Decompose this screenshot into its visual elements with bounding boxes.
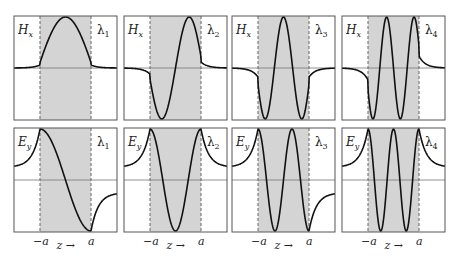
ey-panel-mode-2: Eyλ2 [124,128,227,232]
hx-panel-mode-3: Hxλ3 [232,16,335,120]
field-label: Ey [127,135,142,151]
tick-minus-a: −a [251,235,267,248]
mode-label: λ1 [97,23,110,39]
mode-label: λ1 [97,135,110,151]
field-label: Ey [345,135,360,151]
mode-label: λ3 [315,23,328,39]
axis-label-z: z → [384,239,404,252]
tick-minus-a: −a [143,235,159,248]
mode-label: λ2 [207,23,220,39]
tick-a: a [88,235,95,248]
axis-label-z: z → [166,239,186,252]
ey-panel-mode-3: Eyλ3 [232,128,335,232]
mode-label: λ4 [425,23,438,39]
tick-minus-a: −a [361,235,377,248]
axis-label-z: z → [56,239,76,252]
mode-label: λ4 [425,135,438,151]
tick-a: a [416,235,423,248]
axis-labels-mode-4: −aaz → [361,235,423,252]
axis-label-z: z → [274,239,294,252]
ey-panel-mode-4: Eyλ4 [342,128,445,232]
field-label: Hx [17,23,33,39]
axis-labels-mode-2: −aaz → [143,235,205,252]
field-label: Ey [235,135,250,151]
mode-label: λ3 [315,135,328,151]
field-label: Ey [17,135,32,151]
tick-a: a [306,235,313,248]
field-label: Hx [127,23,143,39]
hx-panel-mode-1: Hxλ1 [14,16,117,120]
axis-labels-mode-3: −aaz → [251,235,313,252]
field-label: Hx [235,23,251,39]
field-label: Hx [345,23,361,39]
tick-a: a [198,235,205,248]
hx-panel-mode-4: Hxλ4 [342,16,445,120]
mode-label: λ2 [207,135,220,151]
axis-labels-mode-1: −aaz → [33,235,95,252]
hx-panel-mode-2: Hxλ2 [124,16,227,120]
tick-minus-a: −a [33,235,49,248]
ey-panel-mode-1: Eyλ1 [14,128,117,232]
mode-profile-figure: Hxλ1Hxλ2Hxλ3Hxλ4Eyλ1Eyλ2Eyλ3Eyλ4−aaz →−a… [0,0,455,256]
